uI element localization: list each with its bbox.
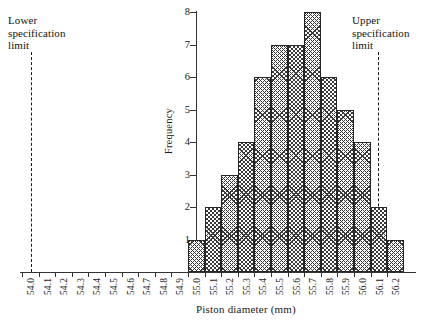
y-axis-tick-label: 5 (176, 105, 190, 115)
x-axis-tick-label: 54.5 (109, 278, 119, 295)
x-axis-tick-label: 54.2 (59, 278, 69, 295)
x-axis-tick (72, 272, 73, 277)
x-axis-tick-label: 54.9 (175, 278, 185, 295)
x-axis-tick-label: 54.4 (92, 278, 102, 295)
histogram-bar (254, 77, 271, 272)
x-axis-tick (188, 272, 189, 277)
x-axis-tick-label: 54.6 (126, 278, 136, 295)
x-axis-tick (337, 272, 338, 277)
y-axis-tick (190, 110, 197, 111)
upper-specification-limit-label: Upper specification limit (352, 14, 410, 52)
y-axis-tick (190, 77, 197, 78)
histogram-bar (221, 175, 238, 273)
y-axis-tick (190, 207, 197, 208)
y-axis-tick-label: 2 (176, 202, 190, 212)
y-axis-tick-label: 6 (176, 72, 190, 82)
x-axis-tick-label: 56.1 (375, 278, 385, 295)
y-axis-tick-label: 8 (176, 7, 190, 17)
x-axis-tick (39, 272, 40, 277)
x-axis-tick-label: 55.7 (308, 278, 318, 295)
x-axis-tick-label: 55.6 (292, 278, 302, 295)
x-axis-tick-label: 54.3 (76, 278, 86, 295)
x-axis-tick (321, 272, 322, 277)
x-axis-tick (271, 272, 272, 277)
y-axis-tick (190, 142, 197, 143)
histogram-bar (271, 45, 288, 273)
histogram-bar (205, 207, 222, 272)
x-axis-title: Piston diameter (mm) (196, 303, 296, 315)
histogram-bar (238, 142, 255, 272)
x-axis-tick-label: 54.0 (26, 278, 36, 295)
x-axis-tick (387, 272, 388, 277)
histogram-bar (188, 240, 205, 273)
x-axis-tick (254, 272, 255, 277)
histogram-bar (337, 110, 354, 273)
x-axis-tick (371, 272, 372, 277)
x-axis-line (20, 272, 416, 273)
x-axis-tick (238, 272, 239, 277)
x-axis-tick-label: 54.1 (43, 278, 53, 295)
x-axis-tick-label: 55.8 (325, 278, 335, 295)
x-axis-tick-label: 56.0 (358, 278, 368, 295)
x-axis-tick (105, 272, 106, 277)
x-axis-tick (155, 272, 156, 277)
histogram-bar (321, 77, 338, 272)
x-axis-tick (55, 272, 56, 277)
lower-specification-limit-line (31, 52, 32, 272)
x-axis-tick (22, 272, 23, 277)
x-axis-tick-label: 54.7 (142, 278, 152, 295)
x-axis-tick (205, 272, 206, 277)
x-axis-tick (304, 272, 305, 277)
x-axis-tick-label: 55.4 (258, 278, 268, 295)
lower-specification-limit-label: Lower specification limit (8, 14, 66, 52)
histogram-bar (371, 207, 388, 272)
y-axis-tick-label: 3 (176, 170, 190, 180)
y-axis-tick (190, 12, 197, 13)
x-axis-tick-label: 55.9 (341, 278, 351, 295)
histogram-bar (354, 142, 371, 272)
y-axis-tick (190, 45, 197, 46)
x-axis-tick-label: 55.0 (192, 278, 202, 295)
y-axis-tick (190, 175, 197, 176)
x-axis-tick-label: 54.8 (159, 278, 169, 295)
x-axis-tick-label: 55.5 (275, 278, 285, 295)
x-axis-tick-label: 55.1 (209, 278, 219, 295)
x-axis-tick-label: 55.3 (242, 278, 252, 295)
x-axis-tick (288, 272, 289, 277)
x-axis-tick (88, 272, 89, 277)
x-axis-tick (171, 272, 172, 277)
y-axis-tick-label: 4 (176, 137, 190, 147)
y-axis-tick-label: 7 (176, 40, 190, 50)
x-axis-tick-label: 56.2 (391, 278, 401, 295)
x-axis-tick (354, 272, 355, 277)
histogram-bar (288, 45, 305, 273)
x-axis-tick (122, 272, 123, 277)
x-axis-tick (221, 272, 222, 277)
x-axis-tick (138, 272, 139, 277)
x-axis-tick-label: 55.2 (225, 278, 235, 295)
histogram-figure: Lower specification limit Upper specific… (0, 0, 422, 323)
y-axis-title: Frequency (163, 108, 174, 154)
histogram-bar (304, 12, 321, 272)
histogram-bar (387, 240, 404, 273)
